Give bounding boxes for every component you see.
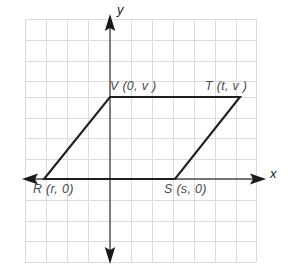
vertex-label-R: R (r, 0) [33, 182, 74, 196]
axis-y [105, 14, 115, 264]
vertex-label-S: S (s, 0) [164, 182, 207, 196]
vertex-label-V: V (0, v ) [110, 79, 156, 93]
vertex-label-T: T (t, v ) [205, 79, 247, 93]
coordinate-plane [0, 0, 288, 273]
axis-label-y: y [117, 2, 124, 17]
figure-root: V (0, v ) T (t, v ) R (r, 0) S (s, 0) y … [0, 0, 288, 273]
grid-lines [25, 19, 256, 262]
axis-label-x: x [270, 166, 277, 181]
